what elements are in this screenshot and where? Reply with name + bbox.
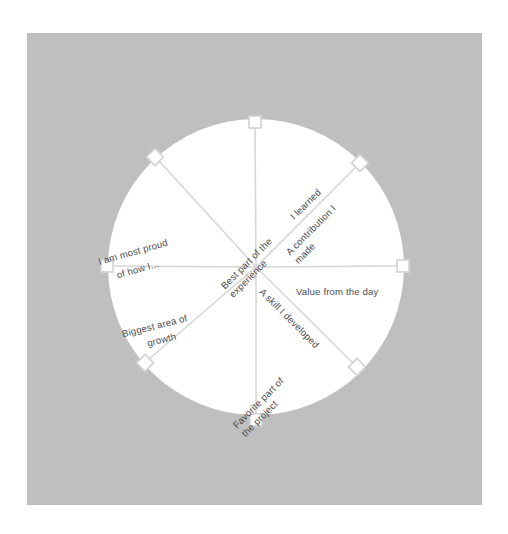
label-value-from-the-day: Value from the day [296,286,379,297]
reflection-wheel-diagram: Best part of the experience I learned A … [0,0,508,534]
node-marker-top[interactable] [249,116,261,128]
slide-canvas: Best part of the experience I learned A … [0,0,508,534]
node-marker-right[interactable] [397,260,409,272]
label-value-day-text: Value from the day [296,286,379,297]
spoke-line-right[interactable] [256,266,397,267]
